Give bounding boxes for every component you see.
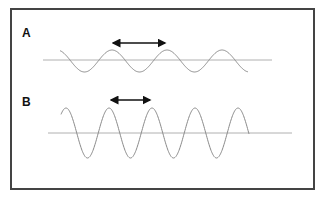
waves-diagram — [0, 0, 326, 197]
wave-a — [60, 50, 248, 72]
panel-b — [48, 100, 292, 158]
panel-a — [43, 43, 272, 72]
